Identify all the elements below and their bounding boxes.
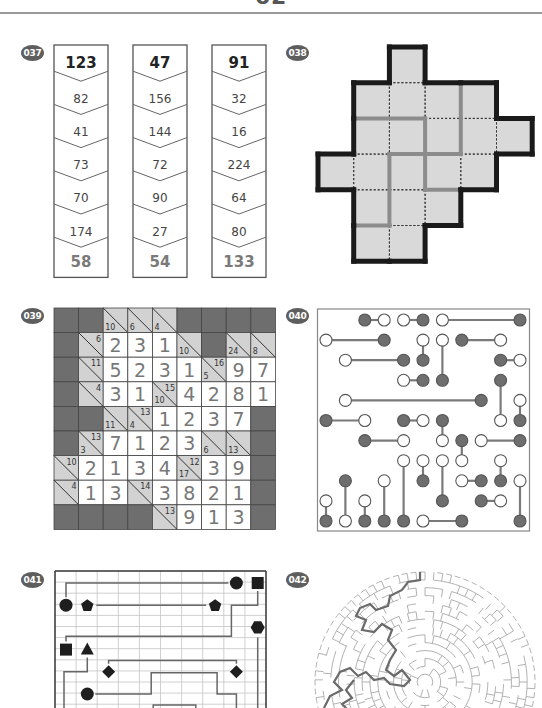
white-node[interactable] [436,314,448,326]
white-node[interactable] [339,394,351,406]
dark-node[interactable] [417,374,429,386]
dark-node[interactable] [359,435,371,447]
dark-node[interactable] [436,415,448,427]
down-clue: 10 [154,396,164,405]
grid-cell[interactable] [425,83,461,119]
grid-cell[interactable] [425,154,461,190]
white-node[interactable] [398,374,410,386]
white-node[interactable] [417,515,429,527]
white-node[interactable] [514,475,526,487]
cell-digit: 2 [134,359,146,381]
diamond-icon[interactable] [102,665,115,678]
grid-cell[interactable] [389,154,425,190]
white-node[interactable] [417,415,429,427]
dark-node[interactable] [398,415,410,427]
pentagon-icon[interactable] [209,599,221,611]
dark-node[interactable] [475,475,487,487]
dark-node[interactable] [514,314,526,326]
white-node[interactable] [495,334,507,346]
dark-node[interactable] [398,515,410,527]
dark-node[interactable] [456,435,468,447]
across-clue: 4 [72,482,77,491]
dark-node[interactable] [417,314,429,326]
grid-cell[interactable] [354,118,390,154]
cell-digit: 5 [109,359,121,381]
white-node[interactable] [436,455,448,467]
grid-cell[interactable] [425,118,461,154]
white-node[interactable] [398,455,410,467]
dark-node[interactable] [417,475,429,487]
circle-icon[interactable] [230,577,243,590]
hexagon-icon[interactable] [251,621,265,633]
dark-node[interactable] [378,515,390,527]
grid-cell[interactable] [318,154,354,190]
grid-cell[interactable] [461,83,497,119]
pentagon-icon[interactable] [81,599,93,611]
white-node[interactable] [398,314,410,326]
grid-cell[interactable] [389,47,425,83]
white-node[interactable] [339,354,351,366]
link-path [66,591,258,642]
grid-cell[interactable] [497,118,533,154]
cell-digit: 1 [109,457,121,479]
dark-node[interactable] [436,495,448,507]
white-node[interactable] [339,515,351,527]
cell-digit: 1 [159,334,171,356]
white-node[interactable] [495,495,507,507]
white-node[interactable] [495,455,507,467]
dark-node[interactable] [495,354,507,366]
white-node[interactable] [514,394,526,406]
dark-node[interactable] [495,374,507,386]
white-node[interactable] [436,435,448,447]
grid-cell[interactable] [354,226,390,262]
down-clue: 4 [154,323,159,332]
dark-node[interactable] [514,415,526,427]
dark-node[interactable] [320,515,332,527]
dark-node[interactable] [398,354,410,366]
grid-cell[interactable] [354,190,390,226]
dark-node[interactable] [359,314,371,326]
dark-node[interactable] [456,334,468,346]
white-node[interactable] [456,475,468,487]
white-node[interactable] [514,354,526,366]
white-node[interactable] [320,495,332,507]
dark-node[interactable] [378,334,390,346]
grid-cell[interactable] [354,83,390,119]
grid-cell[interactable] [389,226,425,262]
white-node[interactable] [436,334,448,346]
grid-cell[interactable] [461,154,497,190]
white-node[interactable] [417,334,429,346]
white-node[interactable] [320,334,332,346]
circle-icon[interactable] [60,599,73,612]
diamond-icon[interactable] [230,665,243,678]
white-node[interactable] [378,314,390,326]
white-node[interactable] [417,455,429,467]
square-icon[interactable] [252,577,264,589]
circle-icon[interactable] [81,688,94,701]
dark-node[interactable] [417,354,429,366]
dark-node[interactable] [320,415,332,427]
dark-node[interactable] [436,374,448,386]
dark-node[interactable] [514,435,526,447]
dark-node[interactable] [475,495,487,507]
white-node[interactable] [359,415,371,427]
white-node[interactable] [378,475,390,487]
grid-cell[interactable] [354,154,390,190]
dark-node[interactable] [495,475,507,487]
grid-cell[interactable] [461,118,497,154]
dark-node[interactable] [339,475,351,487]
dark-node[interactable] [514,515,526,527]
square-icon[interactable] [60,644,72,656]
grid-cell[interactable] [389,190,425,226]
white-node[interactable] [359,495,371,507]
grid-cell[interactable] [389,83,425,119]
grid-cell[interactable] [425,190,461,226]
white-node[interactable] [456,455,468,467]
grid-cell[interactable] [389,118,425,154]
white-node[interactable] [398,435,410,447]
dark-node[interactable] [456,515,468,527]
white-node[interactable] [475,435,487,447]
dark-node[interactable] [475,394,487,406]
dark-node[interactable] [359,515,371,527]
white-node[interactable] [495,415,507,427]
